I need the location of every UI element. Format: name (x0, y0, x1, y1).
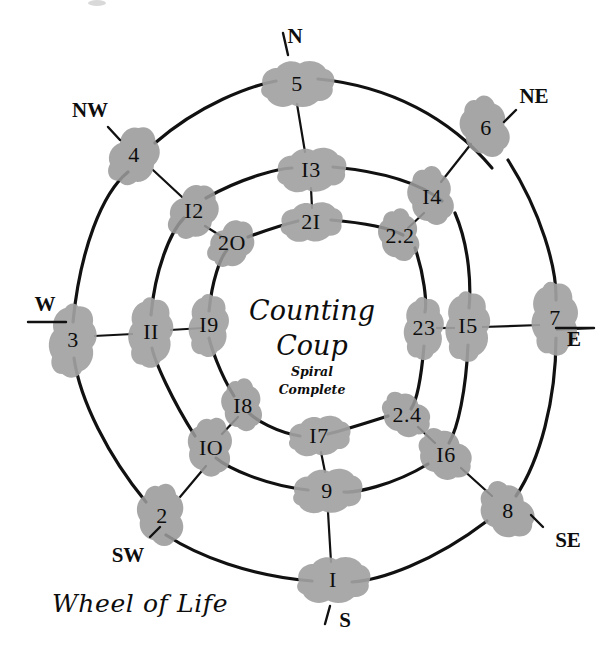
stone-node-label-17: I7 (309, 423, 328, 448)
stone-node-label-19: I9 (199, 312, 218, 337)
compass-tick-ne (504, 110, 516, 122)
stone-node-label-11: II (143, 319, 159, 344)
stone-node-label-21: 2I (301, 209, 320, 234)
stone-node-13: I3 (274, 143, 350, 197)
stone-node-label-18: I8 (233, 393, 252, 418)
compass-label-sw: SW (112, 543, 145, 567)
compass-label-se: SE (555, 528, 581, 552)
scan-artifact (88, 0, 106, 6)
stone-node-23: 23 (403, 296, 445, 360)
stone-node-label-22: 2.2 (386, 223, 415, 248)
figure-caption: Wheel of Life (52, 589, 228, 618)
stone-node-15: I5 (444, 291, 491, 363)
stone-node-6: 6 (449, 89, 522, 166)
stone-node-label-8: 8 (502, 498, 514, 523)
compass-label-e: E (567, 327, 581, 351)
compass-label-n: N (287, 24, 302, 48)
compass-label-w: W (35, 292, 56, 316)
compass-label-nw: NW (72, 98, 108, 122)
stone-node-5: 5 (258, 57, 337, 111)
compass-label-s: S (339, 608, 351, 632)
stone-node-label-9: 9 (321, 478, 333, 503)
stone-node-label-5: 5 (291, 71, 303, 96)
stone-node-19: I9 (187, 293, 231, 359)
stone-node-label-3: 3 (67, 327, 79, 352)
stone-node-17: I7 (285, 411, 354, 461)
stone-node-label-15: I5 (458, 313, 477, 338)
stone-node-label-1: I (329, 567, 337, 592)
stone-node-label-2: 2 (156, 503, 168, 528)
stone-node-label-14: I4 (422, 184, 441, 209)
center-title-line1: Counting (249, 295, 375, 326)
stone-node-label-13: I3 (301, 157, 320, 182)
center-subtitle-line1: Spiral (291, 364, 333, 379)
stone-node-label-23: 23 (413, 315, 436, 340)
stone-node-11: II (126, 296, 175, 369)
compass-tick-nw (108, 127, 120, 140)
stone-node-21: 2I (278, 198, 346, 246)
stone-node-label-4: 4 (128, 142, 140, 167)
compass-layer: NNEESESSWWNW (28, 24, 594, 632)
compass-tick-s (325, 606, 330, 624)
compass-n: N (283, 24, 303, 55)
compass-nw: NW (72, 98, 120, 140)
center-subtitle-line2: Complete (279, 382, 346, 397)
center-label-group: Counting Coup Spiral Complete (249, 295, 375, 397)
compass-s: S (325, 606, 351, 632)
wheel-diagram-canvas: I23456789IOIII2I3I4I5I6I7I8I92O2I2.2232.… (0, 0, 613, 657)
stone-node-label-10: IO (199, 435, 223, 460)
stone-node-label-16: I6 (436, 442, 455, 467)
stone-node-label-7: 7 (549, 305, 561, 330)
compass-ne: NE (504, 84, 549, 122)
center-title-line2: Coup (276, 330, 348, 361)
stone-node-label-12: I2 (184, 198, 203, 223)
stone-node-1: I (294, 553, 373, 607)
stone-node-2: 2 (129, 479, 194, 552)
wheel-of-life-figure: I23456789IOIII2I3I4I5I6I7I8I92O2I2.2232.… (0, 0, 613, 657)
compass-label-ne: NE (519, 84, 548, 108)
compass-se: SE (531, 515, 581, 552)
stone-node-label-24: 2.4 (393, 402, 422, 427)
stone-node-9: 9 (290, 464, 366, 518)
stone-node-label-6: 6 (480, 115, 492, 140)
stone-node-label-20: 2O (218, 230, 246, 255)
compass-sw: SW (112, 527, 160, 567)
